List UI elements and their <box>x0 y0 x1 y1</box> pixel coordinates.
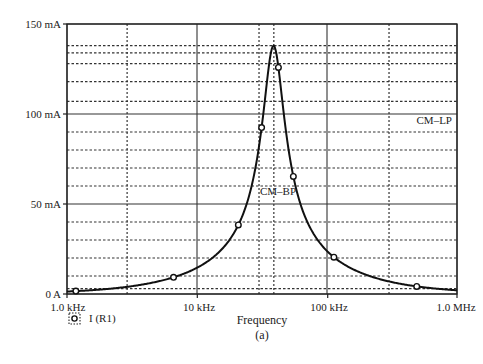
y-tick-label-50: 50 mA <box>31 198 61 210</box>
figure-caption: (a) <box>255 328 268 342</box>
data-point-marker <box>73 288 79 294</box>
major-gridlines <box>67 24 457 294</box>
x-tick-label-1M: 1.0 MHz <box>436 301 475 313</box>
x-tick-label-100k: 100 kHz <box>310 301 348 313</box>
x-axis-title: Frequency <box>237 313 288 327</box>
series-markers <box>73 65 419 294</box>
data-point-marker <box>291 174 297 180</box>
y-tick-label-150: 150 mA <box>25 18 61 30</box>
y-tick-label-100: 100 mA <box>25 108 61 120</box>
y-tick-label-0: 0 A <box>45 288 61 300</box>
legend: I (R1) <box>69 312 116 325</box>
x-tick-label-1k: 1.0 kHz <box>51 301 86 313</box>
legend-circle-marker-icon <box>72 316 77 321</box>
legend-label: I (R1) <box>89 312 116 325</box>
annotation-cm-lp: CM–LP <box>417 114 452 126</box>
x-tick-label-10k: 10 kHz <box>183 301 215 313</box>
annotation-cm-bp: CM–BP <box>260 185 296 197</box>
minor-gridlines <box>67 24 457 294</box>
data-point-marker <box>331 254 337 260</box>
data-point-marker <box>414 284 420 290</box>
data-point-marker <box>276 65 282 71</box>
chart-canvas: 150 mA 100 mA 50 mA 0 A 1.0 kHz 10 kHz 1… <box>0 0 483 364</box>
data-point-marker <box>259 125 265 131</box>
data-point-marker <box>171 275 177 281</box>
data-point-marker <box>236 222 242 228</box>
plot-frame <box>67 24 457 294</box>
